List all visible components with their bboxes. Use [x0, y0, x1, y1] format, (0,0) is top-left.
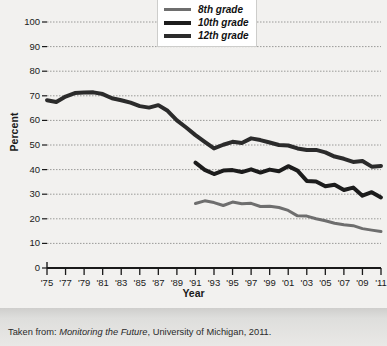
source-prefix: Taken from:: [8, 327, 59, 337]
y-tick-label: 10: [14, 237, 40, 248]
y-tick-label: 0: [14, 262, 40, 273]
legend-item-8th-grade: 8th grade: [164, 3, 249, 16]
legend-line-icon-12th-grade: [164, 34, 191, 38]
legend-line-icon-8th-grade: [164, 8, 191, 11]
series-line-8th-grade: [195, 201, 381, 232]
source-footer: Taken from: Monitoring the Future, Unive…: [0, 308, 387, 346]
legend-label-12th-grade: 12th grade: [198, 29, 249, 42]
chart-figure: 0102030405060708090100 '75'77'79'81'83'8…: [0, 0, 387, 346]
chart-legend: 8th grade 10th grade 12th grade: [157, 0, 257, 47]
x-axis-title: Year: [0, 287, 387, 299]
source-caption: Taken from: Monitoring the Future, Unive…: [8, 327, 271, 337]
source-suffix: , University of Michigan, 2011.: [148, 327, 272, 337]
legend-item-12th-grade: 12th grade: [164, 29, 249, 42]
y-tick-label: 80: [14, 65, 40, 76]
y-tick-label: 90: [14, 41, 40, 52]
legend-label-8th-grade: 8th grade: [198, 3, 243, 16]
y-tick-label: 30: [14, 188, 40, 199]
legend-label-10th-grade: 10th grade: [198, 16, 249, 29]
y-axis-title: Percent: [8, 97, 20, 167]
legend-item-10th-grade: 10th grade: [164, 16, 249, 29]
source-title: Monitoring the Future: [59, 327, 147, 337]
legend-line-icon-10th-grade: [164, 21, 191, 25]
series-line-12th-grade: [47, 92, 381, 166]
chart-plot-area: 0102030405060708090100 '75'77'79'81'83'8…: [0, 0, 387, 308]
y-tick-label: 100: [14, 16, 40, 27]
y-tick-label: 20: [14, 213, 40, 224]
series-line-10th-grade: [195, 163, 381, 198]
